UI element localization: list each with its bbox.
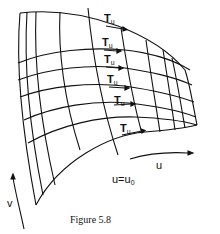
tangent-label-main: T — [107, 73, 114, 85]
tangent-label-main: T — [120, 122, 127, 134]
figure-caption: Figure 5.8 — [70, 214, 111, 225]
v-axis-label: v — [7, 198, 13, 209]
tangent-label-main: T — [102, 36, 109, 48]
tangent-label-main: T — [104, 53, 111, 65]
u-direction-arrow — [130, 151, 193, 159]
curve-label-sub: 0 — [131, 179, 135, 186]
curve-label-main: u=u — [112, 173, 131, 185]
tangent-label-6: Tu — [120, 123, 131, 135]
tangent-label-4: Tu — [107, 74, 118, 86]
tangent-label-sub: u — [111, 18, 115, 25]
tangent-label-main: T — [104, 12, 111, 24]
u-line-3 — [20, 84, 194, 102]
tangent-label-2: Tu — [102, 37, 113, 49]
tangent-label-1: Tu — [104, 13, 115, 25]
u-axis-label: u — [156, 160, 162, 171]
tangent-label-main: T — [114, 94, 121, 106]
tangent-label-sub: u — [121, 100, 125, 107]
tangent-label-5: Tu — [114, 95, 125, 107]
v-line-3 — [60, 12, 80, 150]
curve-label: u=u0 — [112, 174, 135, 186]
tangent-label-sub: u — [111, 59, 115, 66]
v-line-2 — [36, 12, 55, 185]
tangent-label-sub: u — [127, 128, 131, 135]
surface-figure — [0, 0, 220, 234]
tangent-label-3: Tu — [104, 54, 115, 66]
surface-left-edge — [19, 13, 36, 205]
surface-bottom-edge — [36, 125, 197, 205]
tangent-label-sub: u — [109, 42, 113, 49]
tangent-label-sub: u — [114, 79, 118, 86]
